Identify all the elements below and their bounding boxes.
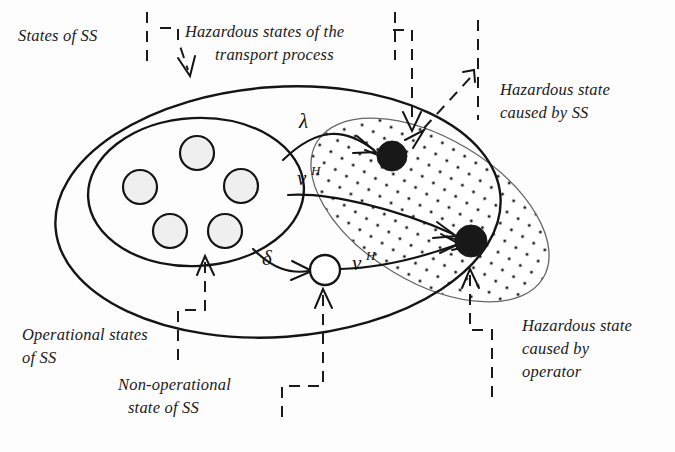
symbol-nu-top: ν [297,166,307,190]
label-hazardous-transport-line1: Hazardous states of the [184,22,344,41]
node-hazardous-state-operator [455,225,487,257]
label-operational-states-line2: of SS [22,348,56,367]
label-operational-states-line1: Operational states [22,325,148,344]
label-hazardous-state-operator-line3: operator [522,362,582,381]
leader-hazardous-transport-right-line [393,30,412,124]
operational-state-node [180,136,214,170]
diagram-svg: λ ν H δ ν H [0,0,675,452]
node-hazardous-state-ss [377,141,407,171]
label-states-of-ss: States of SS [18,26,97,45]
leader-hazardous-state-ss-diagonal [424,78,470,128]
symbol-lambda: λ [298,109,308,133]
symbol-nu-top-superscript: H [310,163,321,178]
operational-state-node [208,214,242,248]
label-non-operational-line1: Non-operational [117,375,231,394]
leader-non-operational-line [282,295,323,420]
leader-hazardous-transport-right [393,12,421,131]
symbol-nu-bottom: ν [352,251,362,275]
label-hazardous-state-ss-line2: caused by SS [500,103,589,122]
label-hazardous-transport-line2: transport process [215,45,334,64]
leader-operational-states [178,256,214,368]
label-non-operational-line2: state of SS [128,398,199,417]
leader-non-operational [282,289,332,420]
leader-hazardous-transport-left-line [160,28,188,70]
symbol-delta: δ [262,246,273,270]
leader-operational-states-line [178,262,205,368]
label-hazardous-state-operator-line1: Hazardous state [521,316,632,335]
label-hazardous-state-ss-line1: Hazardous state [499,80,610,99]
operational-state-node [153,214,187,248]
operational-state-node [123,170,157,204]
node-non-operational-state [310,255,340,285]
figure-canvas: λ ν H δ ν H [0,0,675,452]
operational-state-node [224,169,258,203]
region-operational-states [84,112,307,271]
symbol-nu-bottom-superscript: H [365,248,376,263]
label-hazardous-state-operator-line2: caused by [522,339,590,358]
